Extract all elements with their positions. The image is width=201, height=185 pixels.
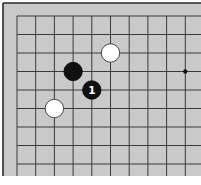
black-stone[interactable] xyxy=(64,62,82,80)
black-stone[interactable]: 1 xyxy=(83,81,101,99)
white-stone[interactable] xyxy=(101,44,119,62)
move-number-label: 1 xyxy=(88,84,95,96)
black-stone-icon xyxy=(64,62,82,80)
go-board[interactable]: 1 xyxy=(0,0,201,185)
white-stone-icon xyxy=(45,99,63,117)
white-stone[interactable] xyxy=(45,99,63,117)
white-stone-icon xyxy=(101,44,119,62)
star-points xyxy=(183,69,187,73)
star-point-icon xyxy=(183,69,187,73)
go-board-svg[interactable]: 1 xyxy=(0,0,201,185)
